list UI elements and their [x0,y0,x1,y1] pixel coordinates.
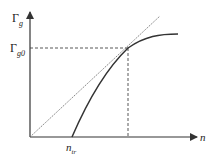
x-axis-label: n [200,131,206,143]
gain-curve [72,34,178,137]
transparency-density-label: ntr [66,141,76,156]
y-axis-label: Γg [12,11,23,28]
gain-threshold-label: Γg0 [10,41,25,58]
gain-diagram: Γg Γg0 ntr n [0,0,213,162]
tangent-line [30,16,160,137]
